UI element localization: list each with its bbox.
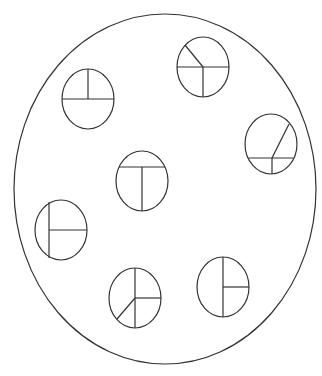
small-circles-group xyxy=(35,37,297,328)
small-circle-bottom-left xyxy=(109,268,161,328)
circles-puzzle-diagram xyxy=(0,0,322,376)
division-line xyxy=(272,124,289,158)
division-line xyxy=(185,45,203,67)
diagram-canvas xyxy=(0,0,322,376)
outer-circle xyxy=(14,14,316,364)
small-circle-top-left xyxy=(62,69,114,129)
small-circle-top-right xyxy=(177,37,229,97)
small-circle-center xyxy=(116,151,168,211)
small-circle-right xyxy=(245,114,297,174)
small-circle-left xyxy=(35,200,87,260)
small-circle-outline xyxy=(245,114,297,174)
small-circle-bottom-right xyxy=(197,257,249,317)
division-line xyxy=(117,298,135,319)
